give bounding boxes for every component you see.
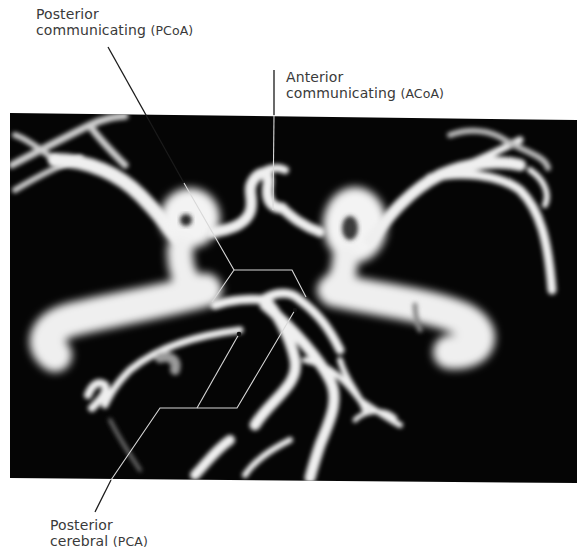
label-pca-line2: cerebral (PCA)	[50, 533, 148, 548]
label-acoa-line1: Anterior	[286, 69, 444, 85]
label-pca-name: cerebral	[50, 533, 113, 548]
label-acoa-line2: communicating (ACoA)	[286, 85, 444, 102]
label-acoa-name: communicating	[286, 85, 400, 101]
label-acoa: Anterior communicating (ACoA)	[286, 69, 444, 102]
label-pca-line1: Posterior	[50, 517, 148, 533]
label-pcoa-abbr: (PCoA)	[150, 23, 193, 38]
label-acoa-abbr: (ACoA)	[400, 86, 444, 101]
label-pcoa-line1: Posterior	[36, 6, 193, 22]
label-pca: Posterior cerebral (PCA)	[50, 517, 148, 548]
label-pca-abbr: (PCA)	[113, 534, 148, 548]
label-pcoa-line2: communicating (PCoA)	[36, 22, 193, 39]
label-pcoa: Posterior communicating (PCoA)	[36, 6, 193, 39]
label-pcoa-name: communicating	[36, 22, 150, 38]
